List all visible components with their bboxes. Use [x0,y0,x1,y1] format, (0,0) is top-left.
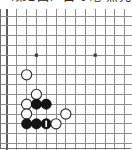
star-point [35,54,38,57]
move-number-marker [45,121,47,127]
white-stone[interactable] [22,109,32,119]
black-stone[interactable] [41,99,51,109]
caption-text: 〈第2図〉白の砲 黒先手 [2,0,132,3]
white-stone[interactable] [22,99,32,109]
diagram-root: 〈第2図〉白の砲 黒先手 [0,0,132,150]
caption-strip: 〈第2図〉白の砲 黒先手 [0,0,132,9]
white-stone[interactable] [31,89,41,99]
white-stone[interactable] [51,119,61,129]
black-stone[interactable] [31,99,41,109]
go-board[interactable] [0,9,132,150]
white-stone[interactable] [22,70,32,80]
white-stone[interactable] [61,109,71,119]
go-board-canvas[interactable] [0,9,132,150]
black-stone[interactable] [31,119,41,129]
go-board-surface[interactable] [0,9,132,150]
black-stone[interactable] [22,119,32,129]
grid-lines [0,9,132,150]
star-point [94,54,97,57]
